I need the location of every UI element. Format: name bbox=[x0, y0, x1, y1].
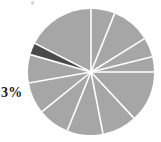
scan-artifact-speck bbox=[31, 1, 34, 5]
pie-chart-figure: 3% bbox=[0, 0, 161, 142]
pie-slice-label-3-percent: 3% bbox=[1, 86, 22, 100]
pie-chart-graphic bbox=[0, 0, 161, 142]
